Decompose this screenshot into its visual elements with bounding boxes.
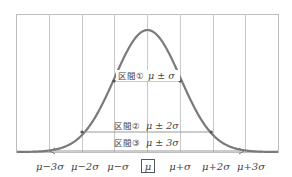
interval-3-label: 区間③ [114,138,140,148]
axis-labels: μ−3σ μ−2σ μ−σ μ μ+σ μ+2σ μ+3σ [36,160,266,173]
grid-lines [50,14,246,152]
interval-2-formula: μ ± 2σ [146,120,179,131]
axis-label-plus-2sigma: μ+2σ [202,161,231,172]
axis-label-minus-sigma: μ−σ [107,161,130,172]
axis-label-minus-3sigma: μ−3σ [36,161,65,172]
interval-1-formula: μ ± σ [148,70,175,81]
normal-distribution-diagram: 区間① μ ± σ 区間② μ ± 2σ 区間③ μ ± 3σ μ−3σ μ−2… [0,0,292,177]
axis-label-plus-3sigma: μ+3σ [237,161,266,172]
axis-label-minus-2sigma: μ−2σ [71,161,100,172]
axis-label-mu: μ [145,161,152,172]
interval-3-formula: μ ± 3σ [146,137,179,148]
interval-2-label: 区間② [114,121,140,131]
interval-1-label: 区間① [118,71,144,81]
axis-label-plus-sigma: μ+σ [169,161,192,172]
